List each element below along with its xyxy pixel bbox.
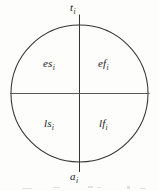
scan-artifact [53,187,60,188]
scan-artifact [22,188,32,189]
label-latest-finish-base: lf [99,117,105,129]
label-bottom-base: a [70,170,76,182]
scan-artifact [127,186,130,189]
label-earliest-finish: efi [98,58,108,69]
label-top-subscript: i [73,7,75,16]
scan-artifact [140,188,146,189]
label-earliest-start: esi [43,58,55,69]
figure-canvas: ti esi efi lsi lfi ai [0,0,159,191]
label-bottom-subscript: i [76,176,78,185]
label-latest-finish-subscript: i [106,123,108,132]
label-earliest-start-base: es [43,57,52,69]
scan-artifact [88,186,93,188]
label-latest-start-subscript: i [52,123,54,132]
activity-node-circle-diagram [0,0,159,191]
label-latest-start-base: ls [44,117,52,129]
label-latest-finish: lfi [99,118,108,129]
scan-artifact [97,187,101,188]
label-earliest-finish-subscript: i [106,63,108,72]
label-top-duration: ti [70,2,75,13]
label-earliest-finish-base: ef [98,57,106,69]
label-earliest-start-subscript: i [53,63,55,72]
label-bottom-activity: ai [70,171,78,182]
label-latest-start: lsi [44,118,54,129]
